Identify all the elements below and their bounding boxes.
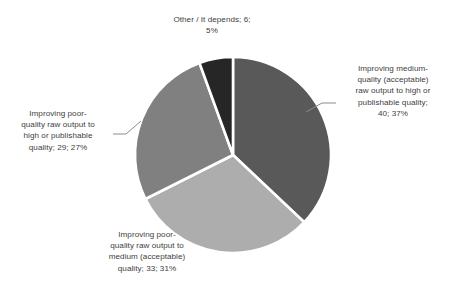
pie-label-improving-poor-to-high: Improving poor- quality raw output to hi… bbox=[2, 108, 114, 153]
pie-label-improving-medium-to-high: Improving medium- quality (acceptable) r… bbox=[334, 63, 452, 119]
pie-chart: Other / It depends; 6; 5% Improving medi… bbox=[0, 0, 454, 296]
pie-label-improving-poor-to-medium: Improving poor- quality raw output to me… bbox=[72, 229, 222, 274]
pie-slices bbox=[135, 57, 331, 253]
pie-label-other-it-depends: Other / It depends; 6; 5% bbox=[136, 14, 288, 36]
